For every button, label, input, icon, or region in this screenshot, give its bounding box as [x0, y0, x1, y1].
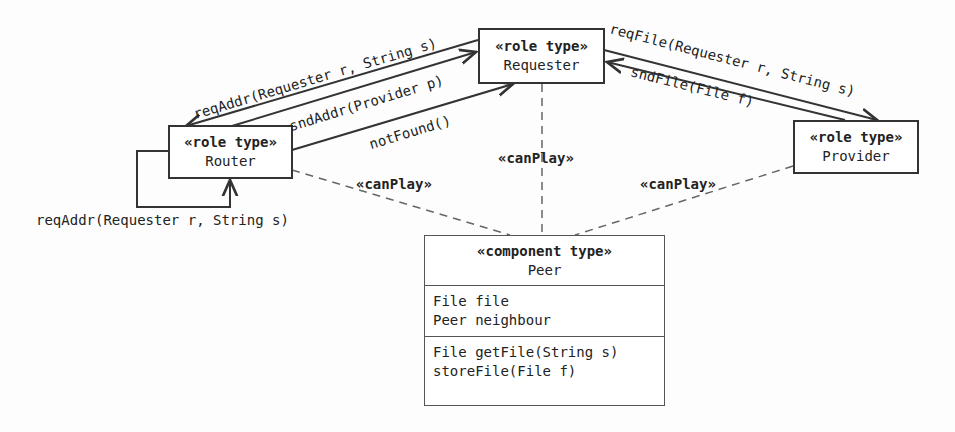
peer-stereotype: «component type» — [425, 242, 664, 261]
router-stereotype: «role type» — [170, 133, 291, 152]
operation: File getFile(String s) — [433, 343, 656, 362]
peer-name: Peer — [425, 261, 664, 280]
router-name: Router — [170, 152, 291, 171]
peer-header: «component type» Peer — [425, 236, 664, 286]
router-role-box[interactable]: «role type» Router — [168, 125, 293, 179]
peer-operations: File getFile(String s) storeFile(File f) — [425, 336, 664, 387]
provider-stereotype: «role type» — [795, 128, 917, 147]
attribute: File file — [433, 292, 656, 311]
requester-name: Requester — [480, 56, 603, 75]
operation: storeFile(File f) — [433, 362, 656, 381]
requester-stereotype: «role type» — [480, 37, 603, 56]
attribute: Peer neighbour — [433, 311, 656, 330]
peer-component-box[interactable]: «component type» Peer File file Peer nei… — [424, 235, 665, 406]
provider-name: Provider — [795, 147, 917, 166]
can-play-provider-label: «canPlay» — [640, 176, 716, 192]
can-play-router-label: «canPlay» — [356, 176, 432, 192]
self-loop-label: reqAddr(Requester r, String s) — [36, 212, 289, 228]
peer-attributes: File file Peer neighbour — [425, 286, 664, 336]
can-play-requester-label: «canPlay» — [498, 150, 574, 166]
requester-role-box[interactable]: «role type» Requester — [478, 28, 605, 84]
provider-role-box[interactable]: «role type» Provider — [793, 120, 919, 174]
